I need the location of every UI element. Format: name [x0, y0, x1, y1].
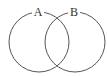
set-b-circle [45, 12, 105, 72]
venn-diagram: A B [0, 0, 107, 76]
set-a-label: A [34, 5, 43, 19]
set-a-circle [9, 12, 69, 72]
set-b-label: B [70, 5, 78, 19]
